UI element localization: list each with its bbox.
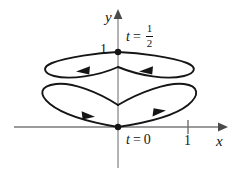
t-half-numerator: 1 — [146, 23, 154, 35]
t-half-fraction: 1 2 — [146, 23, 154, 49]
t-zero-variable: t — [126, 133, 130, 147]
t-half-variable: t — [126, 30, 130, 44]
arrowhead-upper-right — [139, 66, 153, 74]
lower-lobe-left-branch — [42, 84, 118, 127]
x-axis-arrowhead — [218, 123, 228, 132]
annotation-t-zero: t = 0 — [126, 133, 151, 147]
x-axis-label: x — [216, 134, 223, 149]
point-t-half — [115, 49, 121, 55]
annotation-t-half: t = 1 2 — [126, 24, 153, 50]
y-axis-label: y — [105, 10, 112, 25]
point-t-zero — [115, 124, 121, 130]
y-axis-arrowhead — [114, 9, 123, 19]
upper-lobe-right-branch — [118, 52, 194, 78]
upper-lobe-path — [45, 52, 194, 78]
arrowhead-upper-left — [76, 66, 90, 74]
t-half-operator: = — [133, 30, 141, 44]
curve-canvas — [0, 0, 241, 179]
t-zero-operator: = — [133, 133, 141, 147]
arrowhead-lower-left — [82, 111, 95, 119]
arrowhead-lower-right — [153, 108, 167, 116]
lower-lobe-path — [42, 84, 196, 127]
t-zero-value: 0 — [144, 133, 151, 147]
t-half-denominator: 2 — [146, 38, 154, 50]
parametric-curve-figure: y x 1 1 t = 1 2 t = 0 — [0, 0, 241, 179]
x-tick-label-1: 1 — [184, 134, 191, 148]
lower-lobe-right-branch — [118, 84, 196, 127]
y-tick-label-1: 1 — [100, 43, 107, 57]
upper-lobe-left-branch — [45, 52, 118, 78]
